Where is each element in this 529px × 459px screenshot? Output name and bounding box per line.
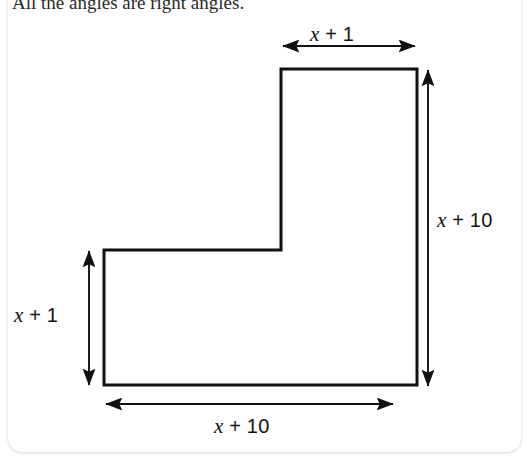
right-label-variable: x [437, 208, 447, 232]
left-label-variable: x [14, 303, 24, 327]
prompt-clip-region: All the angles are right angles. [0, 0, 529, 15]
right-dimension-label: x + 10 [437, 208, 493, 233]
top-label-constant: 1 [343, 23, 354, 45]
right-label-constant: 10 [470, 209, 493, 231]
bottom-dimension-label: x + 10 [214, 414, 270, 439]
left-label-operator: + [29, 304, 41, 326]
bottom-label-variable: x [214, 414, 224, 438]
right-label-operator: + [452, 209, 464, 231]
bottom-label-constant: 10 [247, 415, 270, 437]
l-shape-outline [104, 69, 417, 385]
top-label-operator: + [325, 23, 337, 45]
left-label-constant: 1 [47, 304, 58, 326]
top-dimension-label: x + 1 [310, 22, 354, 47]
prompt-text: All the angles are right angles. [12, 0, 244, 14]
bottom-label-operator: + [229, 415, 241, 437]
left-dimension-label: x + 1 [14, 303, 58, 328]
top-label-variable: x [310, 22, 320, 46]
